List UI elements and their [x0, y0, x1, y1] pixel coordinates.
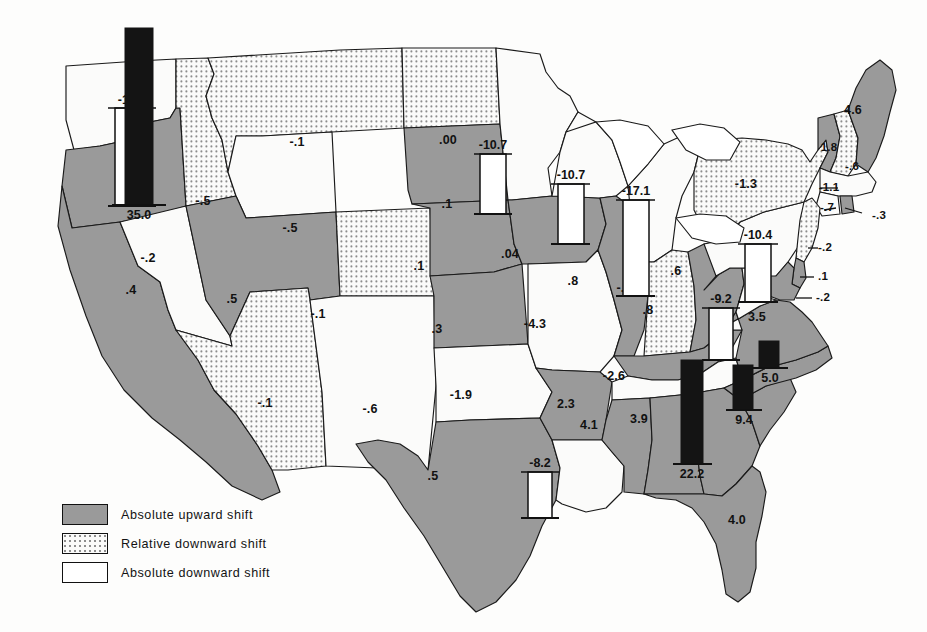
bar-label-MN: -10.7: [479, 138, 508, 152]
legend-label-relative-downward: Relative downward shift: [121, 537, 267, 551]
label-OK: -1.9: [450, 388, 472, 402]
legend-label-upward: Absolute upward shift: [121, 508, 253, 522]
map-figure: .4 -.2 -.5 -.1 -.5 .5 -.1 -.1 -.6 .00 .1…: [0, 0, 927, 632]
label-KS: .3: [432, 322, 443, 336]
state-IA[interactable]: [508, 196, 606, 264]
bar-label-WI: -10.7: [557, 168, 586, 182]
label-NE: .1: [414, 259, 425, 273]
label-TN: -2.6: [603, 369, 625, 383]
label-RI: -.3: [872, 209, 886, 221]
legend-swatch-relative-downward: [62, 533, 108, 554]
bar-label-LA: -8.2: [529, 456, 551, 470]
state-RI[interactable]: [840, 196, 854, 214]
legend-swatch-absolute-downward: [62, 562, 108, 583]
legend-item-upward: Absolute upward shift: [62, 500, 270, 529]
label-KY: .8: [643, 303, 654, 317]
label-NH: -.6: [845, 160, 859, 172]
label-MS: 4.1: [580, 418, 598, 432]
label-DE: .1: [818, 270, 828, 282]
label-AL: 3.9: [630, 412, 648, 426]
label-ND: .00: [439, 133, 457, 147]
bar-label-MI: -17.1: [622, 184, 651, 198]
label-MT: -.1: [289, 135, 304, 149]
legend: Absolute upward shift Relative downward …: [62, 500, 270, 587]
bar-label-GA: 22.2: [680, 467, 704, 481]
label-CO: -.1: [310, 307, 325, 321]
label-AZ: -.1: [257, 396, 272, 410]
label-SD: .1: [442, 197, 453, 211]
label-NY: -1.3: [735, 177, 757, 191]
label-NM: -.6: [362, 402, 377, 416]
label-OH: .6: [671, 264, 682, 278]
label-IL: .8: [568, 274, 579, 288]
label-AR: 2.3: [557, 397, 575, 411]
label-VA: 3.5: [748, 310, 766, 324]
legend-label-absolute-downward: Absolute downward shift: [121, 566, 270, 580]
bar-label-NC: 5.0: [761, 371, 778, 385]
label-NJ: -.2: [818, 241, 832, 253]
label-CT: -.7: [820, 201, 834, 213]
bar-label-PA: -10.4: [744, 228, 773, 242]
label-CA: .4: [126, 283, 137, 297]
label-WY: -.5: [282, 221, 297, 235]
legend-item-relative-downward: Relative downward shift: [62, 529, 270, 558]
label-FL: 4.0: [728, 513, 746, 527]
bar-label-SC: 9.4: [735, 413, 752, 427]
bar-label-OR: 35.0: [127, 208, 151, 222]
state-DE[interactable]: [792, 258, 806, 288]
legend-swatch-upward: [62, 504, 108, 525]
bar-label-WV: -9.2: [710, 292, 732, 306]
state-ND[interactable]: [402, 48, 500, 128]
legend-item-absolute-downward: Absolute downward shift: [62, 558, 270, 587]
label-UT: .5: [227, 292, 238, 306]
label-MD: -.2: [816, 291, 830, 303]
label-ID: -.5: [195, 194, 210, 208]
state-CO[interactable]: [336, 208, 434, 296]
label-MO: -4.3: [524, 317, 546, 331]
state-WY[interactable]: [228, 132, 336, 218]
bar-MN: -10.7: [474, 138, 512, 214]
label-TX: .5: [428, 469, 439, 483]
label-NV: -.2: [140, 251, 155, 265]
label-ME: 4.6: [844, 103, 862, 117]
label-IA: .04: [501, 247, 519, 261]
label-VT: 1.8: [821, 141, 838, 153]
state-KS[interactable]: [430, 264, 528, 348]
label-MA: -1.1: [819, 181, 840, 193]
